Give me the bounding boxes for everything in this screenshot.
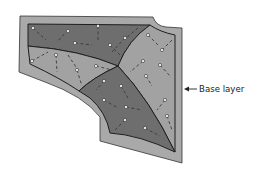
layered-panel-diagram: Base layer xyxy=(0,0,264,174)
base-layer-callout: Base layer xyxy=(184,84,245,94)
base-layer-label: Base layer xyxy=(199,84,245,94)
callout-arrowhead-icon xyxy=(184,87,189,92)
